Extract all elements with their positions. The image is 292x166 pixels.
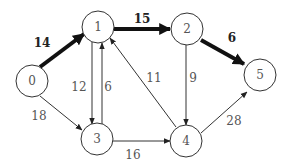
node-label-4: 4 [182, 134, 190, 148]
edge-4-1 [110, 38, 176, 127]
node-3: 3 [81, 123, 113, 155]
edge-label-4-5: 28 [226, 114, 241, 128]
edge-label-0-1: 14 [34, 36, 51, 50]
edge-label-3-1: 6 [104, 80, 112, 94]
node-label-5: 5 [256, 68, 264, 82]
node-2: 2 [171, 13, 203, 45]
edge-label-4-1: 11 [146, 71, 161, 85]
edge-label-3-4: 16 [125, 148, 140, 162]
edge-label-2-4: 9 [189, 71, 197, 85]
node-label-3: 3 [93, 132, 101, 146]
node-label-2: 2 [183, 22, 191, 36]
edge-labels: 14 15 6 18 12 6 11 9 16 28 [31, 12, 241, 162]
node-0: 0 [16, 65, 48, 97]
edge-2-5 [201, 40, 244, 64]
node-label-0: 0 [28, 74, 36, 88]
edge-label-1-2: 15 [134, 12, 151, 26]
graph-diagram: 14 15 6 18 12 6 11 9 16 28 0 1 2 3 4 [0, 0, 292, 166]
edge-label-1-3: 12 [71, 80, 86, 94]
node-1: 1 [82, 11, 114, 43]
node-4: 4 [170, 125, 202, 157]
node-label-1: 1 [94, 20, 102, 34]
node-5: 5 [244, 59, 276, 91]
edge-label-2-5: 6 [228, 31, 236, 45]
edge-label-0-3: 18 [31, 109, 46, 123]
